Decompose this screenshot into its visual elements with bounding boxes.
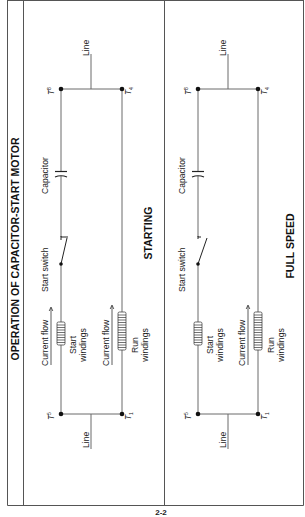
start-windings-label-2: windings <box>215 328 225 362</box>
line-label-bottom: Line <box>218 432 228 448</box>
run-windings-label-1: Run <box>266 337 276 353</box>
start-switch-open <box>196 236 207 266</box>
terminal-t8-dot <box>196 87 201 92</box>
page-number: 2-2 <box>155 508 167 517</box>
terminal-label-t5: T 5 <box>46 412 56 420</box>
capacitor-label: Capacitor <box>177 157 187 194</box>
panel-starting: Line Line Capacitor Start switch Current… <box>40 40 154 449</box>
svg-text:4: 4 <box>128 87 134 90</box>
terminal-label-t8: T 8 <box>46 87 56 95</box>
svg-text:4: 4 <box>264 87 270 90</box>
capacitor-label: Capacitor <box>40 157 50 194</box>
state-label-starting: STARTING <box>142 207 154 260</box>
line-label-bottom: Line <box>81 432 91 448</box>
svg-text:8: 8 <box>183 87 189 90</box>
start-windings-label-1: Start <box>205 335 215 354</box>
terminal-label-t5: T 5 <box>183 412 193 420</box>
svg-text:1: 1 <box>128 412 134 415</box>
start-windings-label-2: windings <box>78 328 88 362</box>
start-switch-closed <box>59 236 68 266</box>
panel-full-speed: Line Line Capacitor Start switch Start w… <box>177 40 296 449</box>
terminal-label-t1: T 1 <box>259 412 270 420</box>
current-flow-label-start: Current flow <box>40 319 50 366</box>
svg-text:1: 1 <box>264 412 270 415</box>
capacitor-symbol <box>55 172 67 178</box>
run-windings-label-2: windings <box>140 328 150 362</box>
svg-text:8: 8 <box>46 87 52 90</box>
run-windings-coil <box>254 312 262 350</box>
start-switch-label: Start switch <box>177 247 187 292</box>
current-flow-label-run: Current flow <box>101 319 111 366</box>
terminal-t5-dot <box>196 412 201 417</box>
run-windings-coil <box>118 312 126 350</box>
line-label-top: Line <box>81 40 91 56</box>
run-windings-label-2: windings <box>276 328 286 362</box>
current-flow-label-run: Current flow <box>237 319 247 366</box>
terminal-label-t1: T 1 <box>123 412 134 420</box>
terminal-label-t4: T 4 <box>123 87 134 95</box>
terminal-t5-dot <box>59 412 64 417</box>
figure-frame <box>8 0 304 506</box>
svg-text:5: 5 <box>183 412 189 415</box>
start-windings-coil <box>194 322 202 345</box>
run-windings-label-1: Run <box>130 337 140 353</box>
capacitor-start-motor-figure: OPERATION OF CAPACITOR-START MOTOR 2-2 <box>0 0 305 517</box>
figure-title: OPERATION OF CAPACITOR-START MOTOR <box>9 137 21 360</box>
line-label-top: Line <box>218 40 228 56</box>
start-windings-label-1: Start <box>68 335 78 354</box>
svg-text:5: 5 <box>46 412 52 415</box>
circuit-wires <box>61 54 122 449</box>
terminal-label-t8: T 8 <box>183 87 193 95</box>
terminal-label-t4: T 4 <box>259 87 270 95</box>
state-label-full-speed: FULL SPEED <box>284 213 296 279</box>
terminal-t8-dot <box>59 87 64 92</box>
start-switch-label: Start switch <box>40 247 50 292</box>
circuit-wires <box>198 54 258 449</box>
start-windings-coil <box>57 322 65 345</box>
capacitor-symbol <box>192 172 204 178</box>
